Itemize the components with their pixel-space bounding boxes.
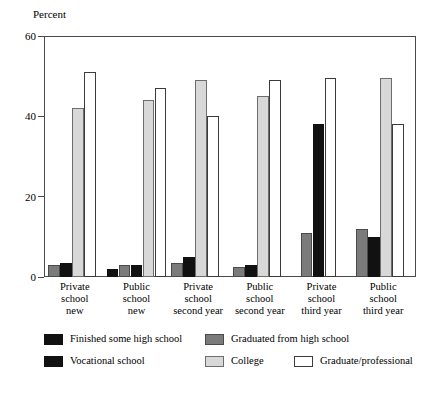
x-axis-category-label: Publicschoolsecond year bbox=[229, 281, 291, 318]
x-axis-label-line: new bbox=[44, 305, 106, 317]
bar-group bbox=[107, 37, 169, 277]
y-axis-tick-label: 0 bbox=[4, 272, 36, 283]
legend-swatch-icon bbox=[205, 356, 224, 367]
legend-label: Graduated from high school bbox=[231, 333, 349, 345]
y-axis-tick bbox=[38, 277, 44, 278]
legend-label: Graduate/professional bbox=[320, 355, 413, 367]
legend-swatch-icon bbox=[44, 356, 63, 367]
legend-label: Vocational school bbox=[70, 355, 145, 367]
bar bbox=[155, 88, 167, 277]
legend-swatch-icon bbox=[205, 334, 224, 345]
x-axis-label-line: school bbox=[44, 293, 106, 305]
legend-item[interactable]: Graduate/professional bbox=[294, 355, 413, 367]
x-axis-category-label: Publicschoolthird year bbox=[352, 281, 414, 318]
bar bbox=[207, 116, 219, 277]
bar bbox=[313, 124, 325, 277]
bar bbox=[257, 96, 269, 277]
x-axis-label-line: Private bbox=[44, 281, 106, 293]
x-axis-labels: PrivateschoolnewPublicschoolnewPrivatesc… bbox=[44, 281, 416, 325]
x-axis-category-label: Publicschoolnew bbox=[106, 281, 168, 318]
bar bbox=[368, 237, 380, 277]
legend-label: College bbox=[231, 355, 264, 367]
bar bbox=[60, 263, 72, 277]
x-axis-category-label: Privateschoolnew bbox=[44, 281, 106, 318]
y-axis-tick bbox=[38, 36, 44, 37]
bar bbox=[325, 78, 337, 277]
bar bbox=[183, 257, 195, 277]
x-axis-label-line: second year bbox=[229, 305, 291, 317]
x-axis-label-line: Public bbox=[229, 281, 291, 293]
bar bbox=[233, 267, 245, 277]
y-axis-title: Percent bbox=[33, 8, 66, 20]
x-axis-label-line: second year bbox=[167, 305, 229, 317]
bar-groups bbox=[45, 37, 415, 277]
legend-swatch-icon bbox=[44, 334, 63, 345]
y-axis-tick bbox=[38, 196, 44, 197]
bar bbox=[380, 78, 392, 277]
bar bbox=[171, 263, 183, 277]
bar bbox=[269, 80, 281, 277]
bar-group bbox=[353, 37, 415, 277]
bar-group bbox=[230, 37, 292, 277]
x-axis-label-line: school bbox=[106, 293, 168, 305]
bar-group bbox=[168, 37, 230, 277]
legend-swatch-icon bbox=[294, 356, 313, 367]
bar bbox=[143, 100, 155, 277]
x-axis-label-line: school bbox=[167, 293, 229, 305]
x-axis-label-line: third year bbox=[291, 305, 353, 317]
bar bbox=[84, 72, 96, 277]
y-axis-tick bbox=[38, 116, 44, 117]
x-axis-label-line: new bbox=[106, 305, 168, 317]
legend-label: Finished some high school bbox=[70, 333, 182, 345]
y-axis-tick-label: 40 bbox=[4, 111, 36, 122]
bar bbox=[72, 108, 84, 277]
y-axis-tick-label: 20 bbox=[4, 192, 36, 203]
bar-group bbox=[45, 37, 107, 277]
bar bbox=[119, 265, 131, 277]
bar-group bbox=[292, 37, 354, 277]
x-axis-label-line: Private bbox=[167, 281, 229, 293]
x-axis-label-line: Public bbox=[352, 281, 414, 293]
bar bbox=[48, 265, 60, 277]
legend-item[interactable]: Vocational school bbox=[44, 355, 145, 367]
x-axis-category-label: Privateschoolthird year bbox=[291, 281, 353, 318]
bar-chart: Percent 0204060 PrivateschoolnewPublicsc… bbox=[0, 0, 429, 393]
chart-legend: Finished some high schoolGraduated from … bbox=[44, 333, 429, 375]
bar bbox=[131, 265, 143, 277]
legend-item[interactable]: Graduated from high school bbox=[205, 333, 349, 345]
bar bbox=[356, 229, 368, 277]
y-axis-tick-label: 60 bbox=[4, 31, 36, 42]
bar bbox=[245, 265, 257, 277]
bar bbox=[392, 124, 404, 277]
x-axis-category-label: Privateschoolsecond year bbox=[167, 281, 229, 318]
x-axis-label-line: school bbox=[291, 293, 353, 305]
legend-item[interactable]: College bbox=[205, 355, 264, 367]
bar bbox=[301, 233, 313, 277]
x-axis-label-line: school bbox=[352, 293, 414, 305]
bar bbox=[195, 80, 207, 277]
legend-item[interactable]: Finished some high school bbox=[44, 333, 182, 345]
x-axis-label-line: Public bbox=[106, 281, 168, 293]
bar bbox=[107, 269, 119, 277]
x-axis-label-line: Private bbox=[291, 281, 353, 293]
x-axis-label-line: school bbox=[229, 293, 291, 305]
x-axis-label-line: third year bbox=[352, 305, 414, 317]
